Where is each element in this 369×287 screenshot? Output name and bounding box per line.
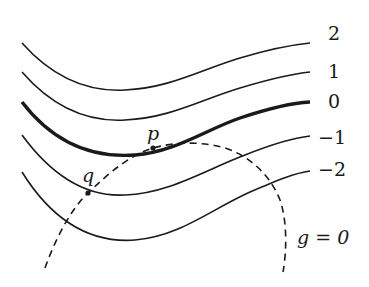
point-p-label: p [147,124,159,143]
level-label-2: 2 [328,24,340,43]
level-label-0: 0 [328,92,340,111]
level-curve-minus-1 [22,135,310,195]
point-p-marker [150,145,155,150]
constraint-curve-g-equals-0 [45,143,286,272]
level-curve-1 [22,72,310,120]
level-label-1: 1 [328,62,340,81]
point-q-marker [85,190,90,195]
constraint-label: g = 0 [297,228,349,247]
level-curve-2 [22,43,310,90]
level-label-minus-1: −1 [318,128,346,147]
level-curve-minus-2 [22,171,310,240]
point-q-label: q [82,166,94,185]
level-label-minus-2: −2 [318,160,346,179]
